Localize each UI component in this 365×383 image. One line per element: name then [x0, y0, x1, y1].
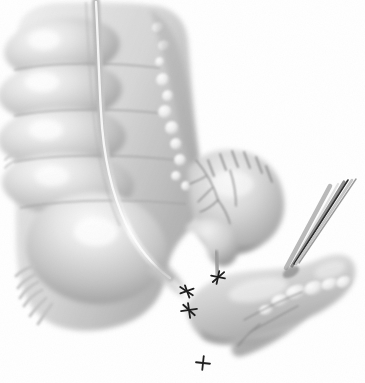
illustration-canvas	[0, 0, 365, 383]
medical-illustration-figure: Ileocecal resection with specimen held i…	[0, 0, 365, 383]
paper-grain-overlay	[0, 0, 365, 383]
